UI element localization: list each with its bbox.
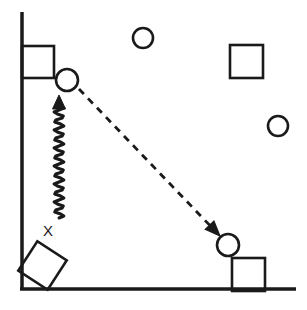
- upper-right-block: [230, 45, 263, 78]
- diagram-canvas: X: [0, 0, 307, 310]
- wall-block: [22, 46, 54, 78]
- physics-diagram-svg: X: [0, 0, 307, 310]
- top-ball: [133, 28, 153, 48]
- spring-arrowhead-up: [53, 95, 66, 109]
- circle-balls-group: [56, 28, 288, 256]
- diagram-labels-group: X: [43, 222, 53, 239]
- spring-wavy-arrow: [53, 95, 66, 218]
- x-label: X: [43, 222, 53, 239]
- spring-coil-path: [54, 108, 64, 218]
- ground-block: [232, 258, 265, 291]
- launch-ball: [56, 69, 78, 91]
- tilted-corner-block: [18, 241, 66, 289]
- trajectory-dashed-arrow: [79, 89, 220, 236]
- trajectory-dashed-line: [79, 89, 213, 228]
- landing-ball: [217, 234, 239, 256]
- right-ball: [268, 116, 288, 136]
